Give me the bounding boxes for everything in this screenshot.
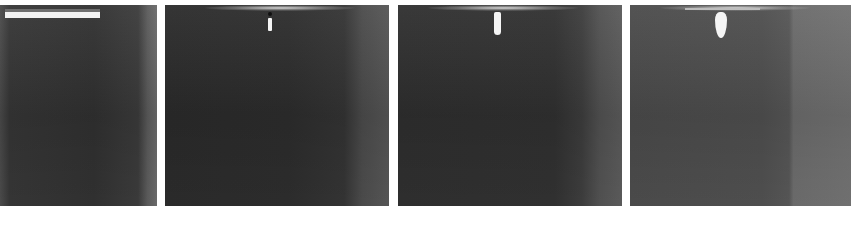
- caption-2: [165, 211, 389, 225]
- droplet: [268, 18, 272, 31]
- nozzle-plate: [685, 8, 760, 10]
- frame-4: [630, 5, 851, 206]
- caption-4: [630, 211, 851, 225]
- frame-shading: [630, 5, 851, 206]
- caption-3: [398, 211, 622, 225]
- frame-3: [398, 5, 622, 206]
- frame-1: [0, 5, 157, 206]
- frame-shading: [165, 5, 389, 206]
- droplet: [494, 12, 501, 35]
- frame-2: [165, 5, 389, 206]
- frame-shading: [398, 5, 622, 206]
- nozzle-bar: [5, 12, 100, 18]
- frame-shading: [0, 5, 157, 206]
- caption-1: [0, 211, 157, 225]
- nozzle-glow: [205, 5, 355, 11]
- nozzle-tip: [268, 12, 272, 16]
- nozzle-glow: [428, 5, 578, 11]
